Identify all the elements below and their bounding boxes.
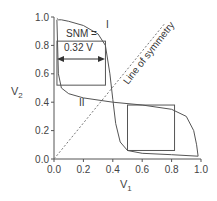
snm-arrow bbox=[57, 56, 105, 62]
svg-text:0.4: 0.4 bbox=[106, 164, 120, 175]
snm-label-line1: SNM = bbox=[66, 28, 97, 39]
svg-text:0.2: 0.2 bbox=[35, 125, 49, 136]
svg-text:0.6: 0.6 bbox=[35, 68, 49, 79]
svg-text:0.4: 0.4 bbox=[35, 97, 49, 108]
svg-text:0.8: 0.8 bbox=[35, 40, 49, 51]
symmetry-label: Line of symmetry bbox=[121, 19, 177, 86]
svg-text:1.0: 1.0 bbox=[194, 164, 208, 175]
axis-ticks: 0.00.20.40.60.81.00.00.20.40.60.81.0 bbox=[35, 12, 208, 176]
butterfly-chart: 0.00.20.40.60.81.00.00.20.40.60.81.0 SNM… bbox=[0, 0, 217, 201]
snm-label-line2: 0.32 V bbox=[64, 42, 93, 53]
svg-text:0.0: 0.0 bbox=[47, 164, 61, 175]
svg-text:0.0: 0.0 bbox=[35, 154, 49, 165]
x-axis-label: V1 bbox=[120, 178, 132, 193]
svg-text:0.8: 0.8 bbox=[165, 164, 179, 175]
svg-text:1.0: 1.0 bbox=[35, 12, 49, 23]
svg-text:0.6: 0.6 bbox=[135, 164, 149, 175]
snm-box-bottom-right bbox=[128, 105, 175, 150]
curve-I-label: I bbox=[106, 19, 109, 30]
svg-text:0.2: 0.2 bbox=[76, 164, 90, 175]
y-axis-label: V2 bbox=[11, 85, 23, 100]
curve-II-label: II bbox=[79, 97, 85, 108]
